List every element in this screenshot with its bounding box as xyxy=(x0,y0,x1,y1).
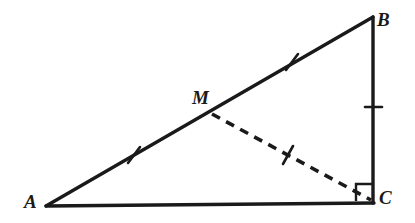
segment-ac xyxy=(46,203,374,206)
vertex-label-c: C xyxy=(379,188,392,207)
vertex-label-a: A xyxy=(24,192,37,211)
vertex-label-b: B xyxy=(377,10,390,29)
vertex-label-m: M xyxy=(192,88,209,107)
segment-mc-dashed xyxy=(212,114,371,200)
geometry-figure: A B C M xyxy=(0,0,415,223)
figure-canvas xyxy=(0,0,415,223)
tick-mark-am xyxy=(128,147,140,163)
segment-ab xyxy=(46,17,373,206)
